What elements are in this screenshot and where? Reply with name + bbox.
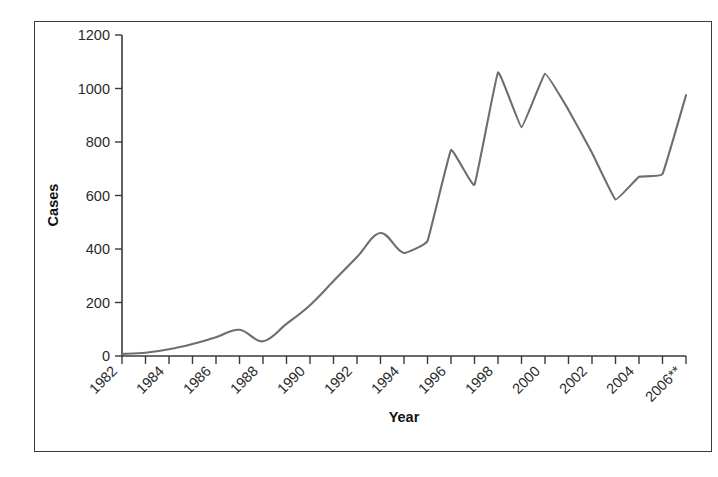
x-tick-label: 2006**	[642, 363, 684, 405]
x-tick-label: 1994	[368, 363, 402, 397]
y-tick-label: 200	[86, 295, 110, 311]
x-tick-label: 2000	[509, 363, 543, 397]
data-series-group	[122, 72, 686, 353]
chart-figure: 020040060080010001200 198219841986198819…	[0, 0, 718, 477]
x-tick-label: 1992	[321, 363, 355, 397]
y-tick-label: 1200	[78, 27, 110, 43]
y-tick-label: 0	[102, 348, 110, 364]
x-tick-label: 1984	[133, 363, 167, 397]
x-tick-label: 1986	[180, 363, 214, 397]
y-tick-group: 020040060080010001200	[78, 27, 122, 364]
y-tick-label: 1000	[78, 81, 110, 97]
x-tick-label: 1988	[227, 363, 261, 397]
x-tick-label: 1990	[274, 363, 308, 397]
line-chart: 020040060080010001200 198219841986198819…	[0, 0, 718, 477]
x-tick-label: 2004	[603, 363, 637, 397]
x-tick-label: 2002	[556, 363, 590, 397]
x-tick-group: 1982198419861988199019921994199619982000…	[86, 356, 686, 405]
y-tick-label: 400	[86, 241, 110, 257]
x-tick-label: 1996	[415, 363, 449, 397]
y-tick-label: 600	[86, 188, 110, 204]
x-axis-title: Year	[389, 409, 420, 425]
data-line-cases	[122, 72, 686, 353]
x-tick-label: 1998	[462, 363, 496, 397]
y-axis-title: Cases	[45, 184, 61, 227]
y-tick-label: 800	[86, 134, 110, 150]
x-tick-label: 1982	[86, 363, 120, 397]
